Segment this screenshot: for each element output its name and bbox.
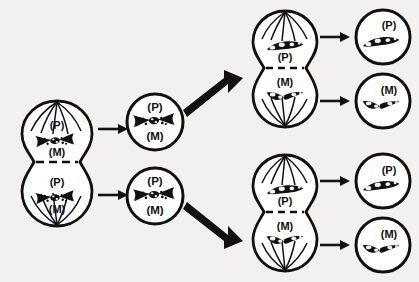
meiosis-diagram: (P) (M) (P) (M) (P) (0, 0, 419, 282)
cell-membrane (356, 74, 410, 128)
label-paternal: (P) (278, 51, 293, 63)
label-maternal: (M) (146, 204, 163, 216)
label-maternal: (M) (381, 228, 398, 240)
label-paternal-lower: (P) (50, 176, 65, 188)
label-maternal: (M) (146, 130, 163, 142)
label-paternal: (P) (278, 195, 293, 207)
label-paternal: (P) (147, 101, 163, 113)
label-maternal: (M) (381, 84, 398, 96)
gamete-2: (M) (356, 74, 410, 128)
gamete-4: (M) (356, 218, 410, 272)
dividing-cell-bottom: (P) (M) (253, 155, 317, 271)
stage-1-parent-cell: (P) (M) (P) (M) (22, 101, 92, 226)
label-paternal: (P) (147, 175, 163, 187)
label-paternal: (P) (382, 19, 397, 31)
label-maternal-upper: (M) (49, 146, 66, 158)
label-maternal: (M) (277, 76, 294, 88)
gamete-1: (P) (356, 10, 410, 64)
gamete-3: (P) (356, 154, 410, 208)
daughter-cell-bottom: (P) (M) (127, 168, 183, 224)
label-paternal: (P) (382, 164, 397, 176)
parent-cell: (P) (M) (P) (M) (22, 101, 92, 226)
cell-membrane (356, 218, 410, 272)
label-maternal-lower: (M) (49, 203, 66, 215)
label-paternal-upper: (P) (50, 119, 65, 131)
cell-membrane (356, 154, 410, 208)
label-maternal: (M) (277, 220, 294, 232)
daughter-cell-top: (P) (M) (127, 94, 183, 150)
dividing-cell-top: (P) (M) (253, 11, 317, 127)
